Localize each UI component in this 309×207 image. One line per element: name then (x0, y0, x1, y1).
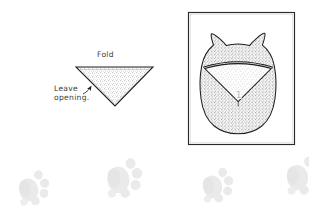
leave-opening-line1: Leave (54, 84, 78, 93)
leave-opening-label: Leave opening. (54, 84, 90, 103)
diagram-canvas: 1 1 (0, 0, 309, 207)
pawprint-decorations (16, 156, 309, 207)
pawprint-icon (105, 157, 144, 199)
diagram-page: 1 1 Fold Leave opening. (0, 0, 309, 207)
pawprint-icon (16, 169, 52, 207)
svg-text:1: 1 (236, 90, 242, 100)
finished-toy-panel: 1 1 (189, 13, 295, 145)
pawprint-icon (285, 156, 309, 196)
pawprint-icon (201, 167, 236, 204)
leave-opening-line2: opening. (54, 93, 90, 102)
fold-label: Fold (97, 50, 114, 59)
